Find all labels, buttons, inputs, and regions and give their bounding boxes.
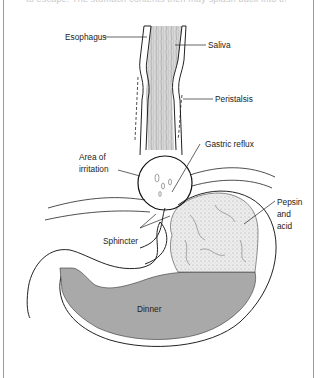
label-sphincter: Sphincter (103, 236, 138, 246)
pepsin-acid-mass (170, 193, 258, 272)
label-peristalsis: Peristalsis (215, 94, 253, 104)
label-acid: acid (277, 221, 293, 231)
area-of-irritation-circle (138, 156, 192, 210)
label-saliva: Saliva (208, 40, 231, 50)
label-and: and (277, 209, 291, 219)
label-dinner: Dinner (137, 304, 162, 314)
label-area-of-irritation-1: Area of (79, 152, 106, 162)
label-pepsin: Pepsin (277, 197, 303, 207)
label-gastric-reflux: Gastric reflux (205, 139, 255, 149)
label-esophagus: Esophagus (65, 32, 107, 42)
label-area-of-irritation-2: irritation (79, 164, 109, 174)
reflux-droplets (155, 174, 172, 197)
